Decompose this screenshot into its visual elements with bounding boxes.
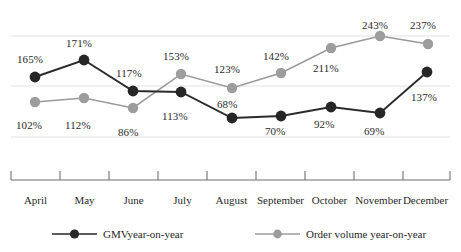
x-axis (11, 171, 450, 180)
data-point-gmv-september (276, 111, 287, 122)
x-axis-label-september: September (256, 195, 305, 206)
legend-label-order-volume: Order volume year-on-year (306, 229, 426, 240)
legend-item-gmv[interactable]: GMVyear-on-year (52, 225, 183, 243)
data-label-gmv-november: 69% (364, 126, 384, 137)
x-axis-label-july: July (158, 195, 207, 206)
data-point-order-december (423, 39, 433, 49)
data-point-order-june (128, 103, 138, 113)
data-label-order-may: 112% (65, 120, 91, 131)
legend-label-gmv: GMVyear-on-year (103, 229, 183, 240)
data-point-gmv-november (375, 108, 386, 119)
data-point-order-july (176, 69, 186, 79)
data-point-order-april (30, 97, 40, 107)
data-point-gmv-august (227, 113, 238, 124)
legend-item-order-volume[interactable]: Order volume year-on-year (255, 225, 426, 243)
data-point-gmv-june (128, 86, 139, 97)
legend-swatch-order-volume-icon (255, 228, 300, 240)
x-axis-label-december: December (401, 195, 450, 206)
x-axis-label-april: April (11, 195, 60, 206)
data-point-gmv-december (422, 67, 433, 78)
x-axis-label-october: October (305, 195, 354, 206)
x-axis-label-november: November (354, 195, 403, 206)
data-label-order-july: 153% (163, 51, 189, 62)
legend-swatch-gmv-icon (52, 228, 97, 240)
data-label-order-october: 211% (313, 63, 339, 74)
x-axis-label-august: August (207, 195, 256, 206)
data-label-gmv-october: 92% (314, 119, 334, 130)
data-label-order-november: 243% (362, 20, 388, 31)
data-point-gmv-may (79, 55, 90, 66)
data-label-gmv-august: 68% (217, 99, 237, 110)
data-label-order-august: 123% (214, 64, 240, 75)
data-label-gmv-april: 165% (17, 54, 43, 65)
chart-legend: GMVyear-on-year Order volume year-on-yea… (0, 225, 461, 247)
data-point-order-may (79, 93, 89, 103)
data-point-gmv-july (176, 87, 187, 98)
data-label-gmv-december: 137% (411, 92, 437, 103)
data-point-order-september (276, 68, 286, 78)
data-label-order-june: 86% (118, 127, 138, 138)
x-axis-label-june: June (109, 195, 158, 206)
data-point-order-october (326, 43, 336, 53)
data-label-gmv-september: 70% (265, 126, 285, 137)
data-label-gmv-may: 171% (66, 38, 92, 49)
data-point-gmv-october (326, 102, 337, 113)
data-label-order-december: 237% (410, 20, 436, 31)
data-label-gmv-june: 117% (116, 68, 142, 79)
data-point-order-august (227, 83, 237, 93)
data-label-order-april: 102% (16, 120, 42, 131)
chart-page: 165% 171% 117% 113% 68% 70% 92% 69% 137%… (0, 0, 461, 252)
data-label-gmv-july: 113% (162, 111, 188, 122)
data-point-gmv-april (30, 72, 41, 83)
x-axis-label-may: May (60, 195, 109, 206)
data-point-order-november (375, 31, 385, 41)
data-label-order-september: 142% (263, 51, 289, 62)
